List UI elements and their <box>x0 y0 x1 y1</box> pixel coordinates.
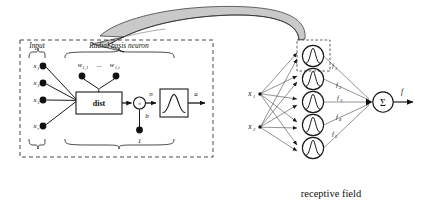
input-node-x2: x 2 <box>32 79 46 88</box>
network-input-sub-x1: 1 <box>253 94 255 99</box>
network-input-label-x1: x <box>247 89 252 98</box>
weight-node-w1r: w 1,r <box>110 61 120 79</box>
network-input-label-x2: x <box>247 122 252 131</box>
hidden-neuron-3 <box>302 91 323 112</box>
figure-caption: receptive field <box>301 188 362 199</box>
hidden-neuron-2 <box>302 68 323 89</box>
input-sub-x1: 1 <box>37 66 39 71</box>
hidden-neuron-1 <box>302 45 323 66</box>
gaussian-curve-icon <box>306 71 321 86</box>
gaussian-curve-icon <box>306 48 321 63</box>
input-connections <box>46 67 76 124</box>
net-input-label: n <box>149 90 153 98</box>
neuron-output-label: a <box>194 90 198 98</box>
dist-box-label: dist <box>93 99 106 108</box>
section-label-input: Input <box>28 41 46 50</box>
transfer-function-box <box>160 89 188 117</box>
network-input-x1: x 1 <box>247 89 261 99</box>
rbf-network-figure: Input Radial basis neuron x 1 x 2 x 3 x … <box>0 0 421 205</box>
network-edges-to-sum <box>324 56 373 148</box>
input-node-x3: x 3 <box>32 96 46 105</box>
hidden-neuron-5 <box>302 137 323 158</box>
weight-ellipsis: ... <box>97 61 102 68</box>
gaussian-curve-icon <box>163 94 185 112</box>
input-sub-xr: r <box>37 126 39 131</box>
weight-labels-f: f 1 f 2 f 3 f 4 f 5 <box>332 62 343 139</box>
bias-constant-label: 1 <box>138 137 142 145</box>
brace-input-bottom <box>29 139 45 149</box>
weight-sub-f1: 1 <box>335 66 337 71</box>
weight-sub-w1r: 1,r <box>115 65 120 71</box>
brace-neuron-bottom <box>65 139 174 149</box>
weight-connections <box>84 79 115 93</box>
hidden-neuron-4 <box>302 114 323 135</box>
weight-sub-f5: 5 <box>335 134 338 139</box>
bias-branch: b 1 <box>136 109 149 145</box>
bias-label: b <box>145 112 149 120</box>
bias-node <box>136 127 143 134</box>
weight-sub-f4: 4 <box>339 117 342 122</box>
product-symbol: × <box>138 100 142 107</box>
network-input-sub-x2: 2 <box>253 127 256 132</box>
figure-canvas: Input Radial basis neuron x 1 x 2 x 3 x … <box>0 0 421 205</box>
section-label-radial-basis-neuron: Radial basis neuron <box>88 41 149 50</box>
detail-panel-border <box>20 40 213 157</box>
weight-sub-w11: 1,1 <box>83 65 89 71</box>
summation-node: Σ <box>373 92 393 112</box>
summation-symbol: Σ <box>380 97 386 108</box>
gaussian-curve-icon <box>306 94 321 109</box>
weight-node-w11: w 1,1 <box>78 61 88 79</box>
network-input-x2: x 2 <box>247 122 261 132</box>
network-output-label: f <box>401 87 404 96</box>
input-node-xr: x r <box>32 122 46 131</box>
input-node-x1: x 1 <box>32 62 46 71</box>
gaussian-curve-icon <box>306 140 321 155</box>
gaussian-curve-icon <box>306 117 321 132</box>
